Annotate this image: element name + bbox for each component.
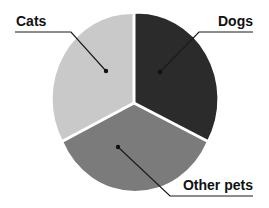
leader-dot-other-pets — [116, 145, 120, 149]
label-dogs: Dogs — [218, 13, 253, 29]
label-other-pets: Other pets — [183, 177, 253, 193]
leader-dot-dogs — [158, 70, 162, 74]
pie-chart: Cats Dogs Other pets — [0, 0, 269, 208]
leader-dot-cats — [104, 69, 108, 73]
label-cats: Cats — [16, 13, 47, 29]
